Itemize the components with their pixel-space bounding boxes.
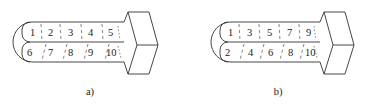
cell-label: 6 bbox=[27, 47, 32, 58]
cell-label: 1 bbox=[30, 27, 35, 38]
caption-b: b) bbox=[268, 86, 288, 97]
cell-label: 3 bbox=[247, 27, 252, 38]
cell-label: 6 bbox=[268, 47, 273, 58]
cell-label: 5 bbox=[108, 27, 113, 38]
cell-label: 7 bbox=[287, 27, 292, 38]
cell-label: 8 bbox=[68, 47, 73, 58]
cell-label: 3 bbox=[68, 27, 73, 38]
cell-label: 2 bbox=[48, 27, 53, 38]
panel-a: 1 2 3 4 5 6 7 8 9 10 a) bbox=[0, 0, 184, 105]
cell-label: 7 bbox=[48, 47, 53, 58]
cell-label: 5 bbox=[267, 27, 272, 38]
cell-label: 9 bbox=[306, 27, 311, 38]
cell-label: 4 bbox=[88, 27, 94, 38]
cell-label: 9 bbox=[88, 47, 93, 58]
caption-a: a) bbox=[80, 86, 100, 97]
cell-label: 8 bbox=[288, 47, 293, 58]
cell-label: 10 bbox=[305, 47, 316, 58]
cell-label: 1 bbox=[228, 27, 233, 38]
cell-label: 4 bbox=[248, 47, 254, 58]
cell-label: 10 bbox=[106, 47, 117, 58]
panel-b: 1 3 5 7 9 2 4 6 8 10 b) bbox=[184, 0, 368, 105]
cell-label: 2 bbox=[225, 47, 230, 58]
